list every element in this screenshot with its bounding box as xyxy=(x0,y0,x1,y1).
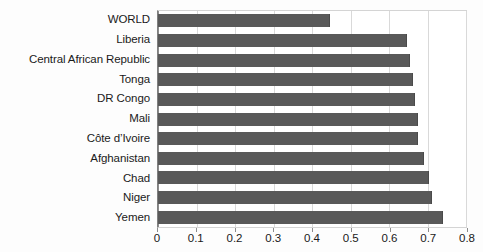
y-axis-label: Tonga xyxy=(0,69,155,89)
bar-row xyxy=(158,188,466,208)
bar xyxy=(158,211,443,224)
x-tick-label: 0.1 xyxy=(188,233,204,245)
bar-row xyxy=(158,90,466,110)
bar xyxy=(158,14,330,27)
y-axis-label: Mali xyxy=(0,109,155,129)
x-tick-label: 0.8 xyxy=(459,233,475,245)
y-axis-label: Niger xyxy=(0,188,155,208)
bar-row xyxy=(158,11,466,31)
bar-row xyxy=(158,50,466,70)
bar-row xyxy=(158,148,466,168)
bar xyxy=(158,152,424,165)
y-axis-category-labels: WORLDLiberiaCentral African RepublicTong… xyxy=(0,10,155,228)
bar-row xyxy=(158,70,466,90)
x-tick-label: 0.3 xyxy=(265,233,281,245)
x-tick-label: 0.4 xyxy=(304,233,320,245)
y-axis-label: DR Congo xyxy=(0,89,155,109)
x-tick-label: 0.7 xyxy=(420,233,436,245)
bar xyxy=(158,73,413,86)
bar-chart: WORLDLiberiaCentral African RepublicTong… xyxy=(0,0,483,252)
bar xyxy=(158,191,432,204)
y-axis-label: Chad xyxy=(0,169,155,189)
chart-title xyxy=(150,0,450,3)
bar-row xyxy=(158,207,466,227)
x-tick-label: 0.5 xyxy=(343,233,359,245)
bar-row xyxy=(158,109,466,129)
y-axis-label: Yemen xyxy=(0,208,155,228)
bar xyxy=(158,54,410,67)
y-axis-label: WORLD xyxy=(0,10,155,30)
bar xyxy=(158,113,418,126)
y-axis-label: Liberia xyxy=(0,30,155,50)
bar xyxy=(158,132,418,145)
bar xyxy=(158,93,415,106)
bar xyxy=(158,171,429,184)
bar-series xyxy=(158,11,466,227)
plot-area xyxy=(157,10,467,228)
y-axis-label: Afghanistan xyxy=(0,149,155,169)
bar-row xyxy=(158,168,466,188)
x-tick-label: 0.2 xyxy=(227,233,243,245)
bar xyxy=(158,34,407,47)
bar-row xyxy=(158,129,466,149)
bar-row xyxy=(158,31,466,51)
x-axis: 00.10.20.30.40.50.60.70.8 xyxy=(157,228,467,252)
gridline xyxy=(466,11,467,227)
y-axis-label: Côte d’Ivoire xyxy=(0,129,155,149)
x-tick-label: 0.6 xyxy=(382,233,398,245)
x-tick-label: 0 xyxy=(154,233,160,245)
y-axis-label: Central African Republic xyxy=(0,50,155,70)
